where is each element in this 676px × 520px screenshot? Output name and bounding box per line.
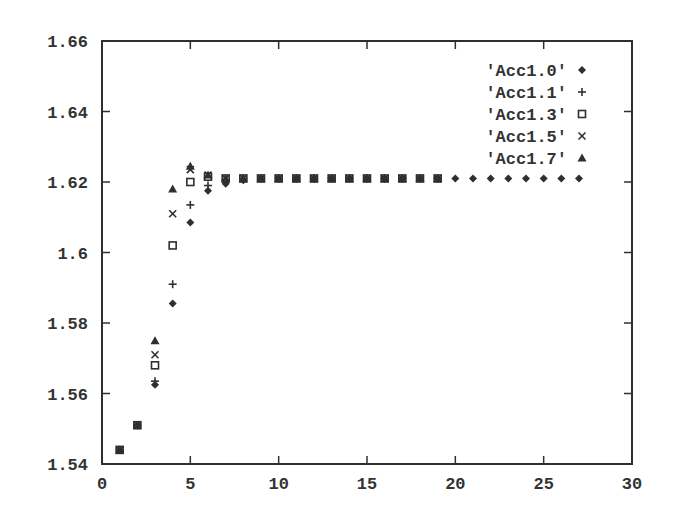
legend-item: 'Acc1.3' [485, 106, 585, 125]
diamond-marker [557, 174, 565, 182]
plot-frame [102, 41, 632, 464]
legend-triangle-icon [578, 154, 587, 162]
x-tick-label: 30 [622, 475, 642, 494]
diamond-marker [522, 174, 530, 182]
legend-cross-icon [579, 133, 586, 140]
cross-marker [169, 210, 176, 217]
legend-label: 'Acc1.5' [485, 128, 567, 147]
diamond-marker [575, 174, 583, 182]
x-tick-label: 0 [97, 475, 107, 494]
legend-item: 'Acc1.0' [485, 62, 586, 81]
y-tick-label: 1.64 [47, 104, 88, 123]
x-tick-label: 5 [185, 475, 195, 494]
series-acc1-1 [116, 174, 442, 453]
legend-item: 'Acc1.1' [485, 84, 586, 103]
y-tick-label: 1.54 [47, 456, 88, 475]
legend-plus-icon [578, 88, 586, 96]
y-tick-label: 1.62 [47, 174, 88, 193]
diamond-marker [186, 219, 194, 227]
data-points [115, 162, 583, 454]
y-tick-label: 1.6 [57, 245, 88, 264]
diamond-marker [504, 174, 512, 182]
diamond-marker [451, 174, 459, 182]
triangle-marker [151, 336, 160, 344]
diamond-marker [487, 174, 495, 182]
x-tick-label: 15 [357, 475, 377, 494]
legend-diamond-icon [578, 66, 586, 74]
legend-label: 'Acc1.1' [485, 84, 567, 103]
legend-label: 'Acc1.7' [485, 150, 567, 169]
triangle-marker [168, 185, 177, 193]
triangle-marker [186, 162, 195, 170]
diamond-marker [540, 174, 548, 182]
legend-square-icon [579, 111, 586, 118]
diamond-marker [469, 174, 477, 182]
square-marker [152, 362, 159, 369]
x-tick-label: 10 [268, 475, 288, 494]
cross-marker [152, 351, 159, 358]
scatter-chart: 1.541.561.581.61.621.641.66 051015202530… [0, 0, 676, 520]
legend-item: 'Acc1.5' [485, 128, 585, 147]
square-marker [169, 242, 176, 249]
y-tick-label: 1.56 [47, 386, 88, 405]
y-tick-label: 1.66 [47, 33, 88, 52]
x-tick-label: 20 [445, 475, 465, 494]
x-tick-label: 25 [533, 475, 553, 494]
diamond-marker [169, 300, 177, 308]
legend-item: 'Acc1.7' [485, 150, 586, 169]
square-marker [187, 179, 194, 186]
legend: 'Acc1.0''Acc1.1''Acc1.3''Acc1.5''Acc1.7' [485, 62, 586, 169]
plus-marker [204, 182, 212, 190]
series-acc1-7 [115, 162, 442, 454]
legend-label: 'Acc1.0' [485, 62, 567, 81]
series-acc1-5 [116, 166, 441, 453]
plus-marker [186, 201, 194, 209]
legend-label: 'Acc1.3' [485, 106, 567, 125]
y-tick-label: 1.58 [47, 315, 88, 334]
series-acc1-3 [116, 173, 441, 453]
plus-marker [169, 280, 177, 288]
series-acc1-0 [116, 174, 583, 453]
